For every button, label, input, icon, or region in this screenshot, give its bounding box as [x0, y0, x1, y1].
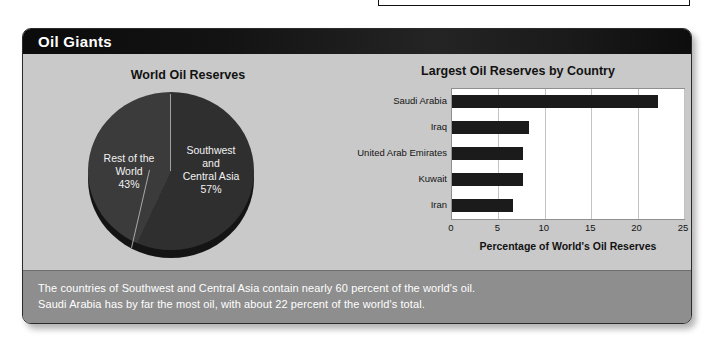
gridline	[684, 89, 685, 219]
caption-band: The countries of Southwest and Central A…	[23, 270, 691, 324]
bar-chart-x-axis-title: Percentage of World's Oil Reserves	[451, 240, 685, 252]
pie-chart-graphic: Rest of theWorld43% SouthwestandCentral …	[88, 92, 254, 258]
panel-title-bar: Oil Giants	[23, 29, 691, 54]
bar	[452, 147, 523, 160]
top-cut-off-box	[378, 0, 690, 6]
pie-slice-label-rest-of-world: Rest of theWorld43%	[94, 152, 164, 191]
bar-chart-category-labels: Saudi ArabiaIraqUnited Arab EmiratesKuwa…	[353, 88, 447, 220]
bar	[452, 95, 658, 108]
pie-chart-title: World Oil Reserves	[23, 68, 353, 82]
bar-row	[452, 167, 684, 193]
panel-body: World Oil Reserves Rest of theWorld43% S…	[23, 54, 691, 270]
bar-chart-x-axis-ticks: 0510152025	[451, 222, 685, 236]
x-axis-tick-label: 20	[624, 222, 650, 233]
panel-title: Oil Giants	[38, 33, 112, 50]
bar-row	[452, 115, 684, 141]
bar-category-label: Iraq	[353, 121, 447, 132]
bar	[452, 173, 523, 186]
x-axis-tick-label: 0	[438, 222, 464, 233]
bar-chart-title: Largest Oil Reserves by Country	[353, 64, 683, 78]
bar-chart-plot-area	[451, 88, 685, 220]
bar	[452, 199, 513, 212]
bar-row	[452, 89, 684, 115]
bar-category-label: Saudi Arabia	[353, 95, 447, 106]
caption-line-2: Saudi Arabia has by far the most oil, wi…	[38, 298, 425, 310]
bar-chart-section: Largest Oil Reserves by Country Saudi Ar…	[353, 54, 692, 270]
bar-row	[452, 141, 684, 167]
x-axis-tick-label: 25	[670, 222, 692, 233]
pie-slice-label-southwest-central-asia: SouthwestandCentral Asia57%	[174, 144, 248, 196]
bar-category-label: Iran	[353, 199, 447, 210]
bar-category-label: Kuwait	[353, 173, 447, 184]
pie-slice-divider-top	[170, 94, 171, 171]
bar-row	[452, 193, 684, 219]
bar-category-label: United Arab Emirates	[353, 147, 447, 158]
x-axis-tick-label: 15	[577, 222, 603, 233]
caption-line-1: The countries of Southwest and Central A…	[38, 282, 475, 294]
x-axis-tick-label: 10	[531, 222, 557, 233]
x-axis-tick-label: 5	[484, 222, 510, 233]
oil-giants-panel: Oil Giants World Oil Reserves Rest of th…	[22, 28, 692, 324]
bar	[452, 121, 529, 134]
pie-chart-section: World Oil Reserves Rest of theWorld43% S…	[23, 54, 353, 270]
